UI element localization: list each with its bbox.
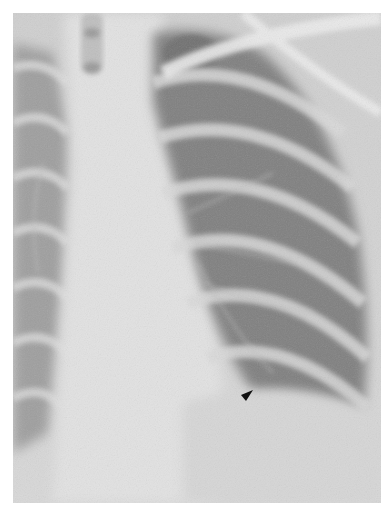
film-grain bbox=[13, 13, 381, 503]
radiograph-image bbox=[13, 13, 381, 503]
radiograph-drawing bbox=[13, 13, 381, 503]
